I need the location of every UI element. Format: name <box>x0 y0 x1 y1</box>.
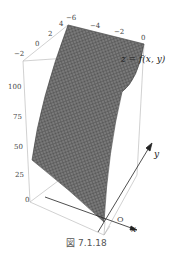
tick-2: 2 <box>48 30 52 38</box>
tick-z50: 50 <box>14 143 23 151</box>
tick-4: 4 <box>59 20 64 28</box>
origin-label: O <box>117 215 124 224</box>
tick-r-m4: −4 <box>90 22 101 30</box>
tick-z0: 0 <box>25 196 29 204</box>
tick-r-0: 0 <box>141 34 145 42</box>
tick-z25: 25 <box>15 171 24 179</box>
function-label: z = f(x, y) <box>120 54 166 64</box>
tick-r-m6: −6 <box>66 14 77 22</box>
x-axis-label: x <box>131 224 136 234</box>
y-arrow-icon <box>146 143 152 151</box>
tick-z100: 100 <box>8 83 21 91</box>
tick-z75: 75 <box>13 113 22 121</box>
tick-m2: −2 <box>14 50 24 58</box>
tick-r-m2: −2 <box>114 28 124 36</box>
surface-plot: −2 0 2 4 −6 −4 −2 0 100 75 50 25 0 z = f… <box>0 0 173 264</box>
tick-0: 0 <box>35 40 39 48</box>
y-axis-label: y <box>153 149 160 159</box>
figure-caption: 図 7.1.18 <box>0 236 173 249</box>
